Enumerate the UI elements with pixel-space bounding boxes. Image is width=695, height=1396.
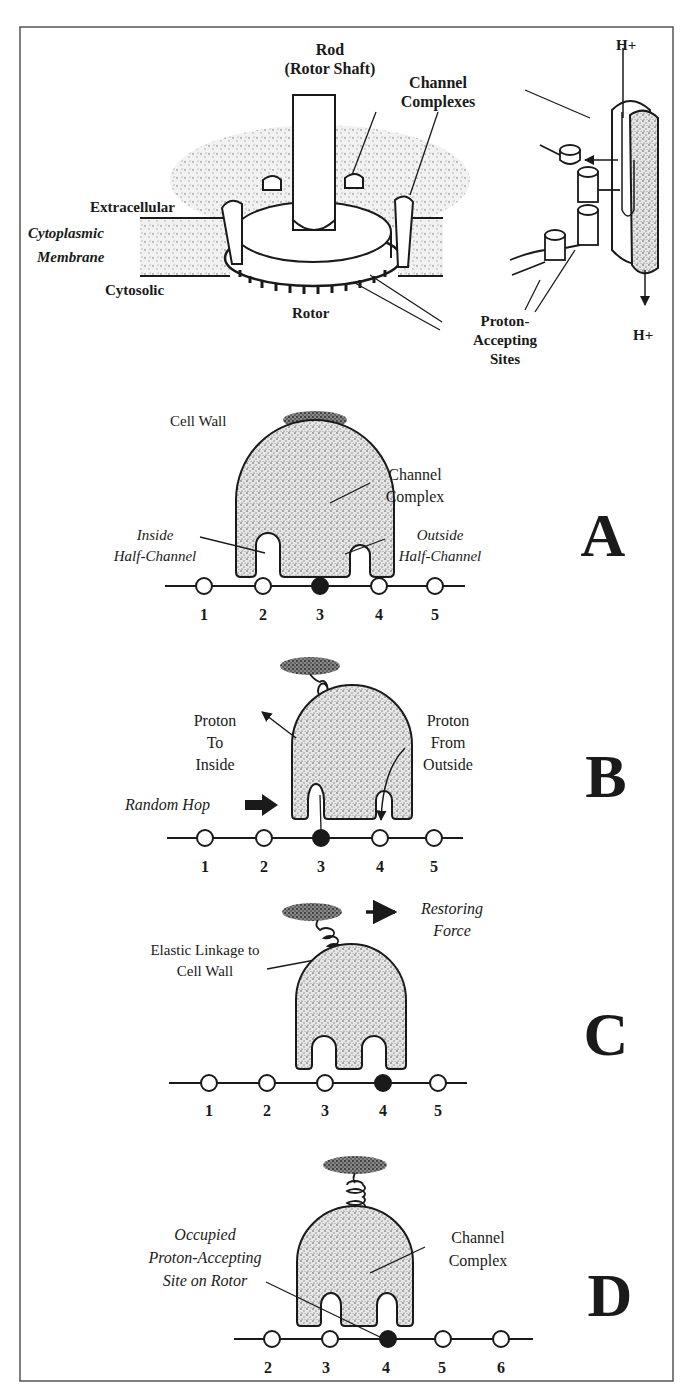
proton-from-outside-label-3: Outside bbox=[423, 756, 473, 773]
channel-complex bbox=[292, 685, 412, 819]
proton-from-outside-label-2: From bbox=[431, 734, 466, 751]
random-hop-arrow-icon bbox=[245, 794, 278, 816]
cell-wall-label: Cell Wall bbox=[170, 413, 226, 429]
site-number: 5 bbox=[434, 1102, 442, 1119]
occupied-site bbox=[313, 830, 329, 846]
site-number: 2 bbox=[260, 858, 268, 875]
cytoplasmic-label-2: Membrane bbox=[36, 249, 105, 265]
extracellular-label: Extracellular bbox=[90, 199, 175, 215]
site-number: 4 bbox=[382, 1359, 390, 1376]
cell-wall-anchor bbox=[280, 657, 340, 675]
channel-inset bbox=[510, 48, 658, 305]
site-number: 4 bbox=[375, 606, 383, 623]
channel-complex-label-1: Channel bbox=[388, 466, 442, 483]
rod-label: Rod bbox=[316, 41, 345, 58]
site-number: 3 bbox=[317, 858, 325, 875]
proton-from-outside-label-1: Proton bbox=[427, 712, 470, 729]
random-hop-label: Random Hop bbox=[124, 796, 210, 814]
site-number: 4 bbox=[379, 1102, 387, 1119]
elastic-linkage-label-1: Elastic Linkage to bbox=[150, 942, 259, 958]
panel-letter: C bbox=[584, 1000, 629, 1068]
motor-overview: Rod (Rotor Shaft) Channel Complexes Extr… bbox=[28, 37, 658, 367]
restoring-force-label-1: Restoring bbox=[420, 900, 483, 918]
rotor-label: Rotor bbox=[292, 305, 330, 321]
proton-accepting-label-1: Proton- bbox=[481, 313, 530, 329]
inside-half-channel-label-2: Half-Channel bbox=[113, 548, 197, 564]
rod-sublabel: (Rotor Shaft) bbox=[285, 60, 376, 78]
restoring-force-label-2: Force bbox=[432, 922, 471, 939]
panel-a: 1 2 3 4 5 Cell Wall Channel Complex Insi… bbox=[113, 411, 626, 623]
channel-complex-label-2: Complex bbox=[449, 1252, 508, 1270]
cell-wall-anchor bbox=[282, 903, 342, 921]
site-number: 5 bbox=[431, 606, 439, 623]
cytosolic-label: Cytosolic bbox=[105, 282, 165, 298]
channel-complexes-label-1: Channel bbox=[409, 74, 467, 91]
proton-to-inside-label-3: Inside bbox=[195, 756, 234, 773]
occupied-site-label-1: Occupied bbox=[174, 1226, 236, 1244]
proton-accepting-label-3: Sites bbox=[490, 351, 520, 367]
occupied-site-label-2: Proton-Accepting bbox=[147, 1249, 261, 1267]
proton-to-inside-label-1: Proton bbox=[194, 712, 237, 729]
outside-half-channel-label-2: Half-Channel bbox=[398, 548, 482, 564]
elastic-linkage-label-2: Cell Wall bbox=[177, 963, 233, 979]
panel-letter: D bbox=[588, 1261, 633, 1329]
occupied-site bbox=[375, 1075, 391, 1091]
channel-complex bbox=[296, 944, 406, 1069]
inside-half-channel-label-1: Inside bbox=[136, 527, 174, 543]
site-number: 2 bbox=[264, 1359, 272, 1376]
channel-complex bbox=[297, 1206, 413, 1326]
h-plus-out-label: H+ bbox=[633, 327, 653, 343]
outside-half-channel-label-1: Outside bbox=[417, 527, 464, 543]
occupied-site-label-3: Site on Rotor bbox=[163, 1272, 248, 1289]
panel-c: 1 2 3 4 5 Restoring Force Elastic Linkag… bbox=[150, 900, 628, 1119]
site-number: 2 bbox=[263, 1102, 271, 1119]
site-number: 3 bbox=[321, 1102, 329, 1119]
membrane-left bbox=[140, 218, 230, 276]
channel-complex-label-2: Complex bbox=[386, 488, 445, 506]
site-number: 2 bbox=[259, 606, 267, 623]
cytoplasmic-label-1: Cytoplasmic bbox=[28, 225, 104, 241]
site-number: 4 bbox=[376, 858, 384, 875]
proton-accepting-label-2: Accepting bbox=[473, 332, 538, 348]
site-number: 3 bbox=[316, 606, 324, 623]
cell-wall-anchor bbox=[323, 1156, 387, 1174]
occupied-site bbox=[312, 578, 328, 594]
site-number: 3 bbox=[322, 1359, 330, 1376]
site-number: 5 bbox=[438, 1359, 446, 1376]
site-number: 5 bbox=[430, 858, 438, 875]
occupied-site bbox=[380, 1331, 396, 1347]
panel-letter: A bbox=[581, 501, 626, 569]
panel-b: 1 2 3 4 5 Proton To Inside Proton From O… bbox=[124, 657, 627, 875]
panel-letter: B bbox=[585, 742, 626, 810]
site-number: 6 bbox=[497, 1359, 505, 1376]
panel-d: 2 3 4 5 6 Occupied Proton-Accepting Site… bbox=[147, 1156, 632, 1376]
channel-complexes-label-2: Complexes bbox=[401, 93, 476, 111]
site-number: 1 bbox=[201, 858, 209, 875]
channel-complex-label-1: Channel bbox=[451, 1229, 505, 1246]
h-plus-in-label: H+ bbox=[616, 37, 636, 53]
flagellar-motor-figure: Rod (Rotor Shaft) Channel Complexes Extr… bbox=[0, 0, 695, 1396]
site-number: 1 bbox=[200, 606, 208, 623]
proton-to-inside-label-2: To bbox=[207, 734, 224, 751]
site-number: 1 bbox=[205, 1102, 213, 1119]
proton-to-inside-arrow bbox=[262, 712, 296, 738]
channel-complex bbox=[236, 420, 394, 577]
rotor-shaft bbox=[293, 95, 335, 230]
